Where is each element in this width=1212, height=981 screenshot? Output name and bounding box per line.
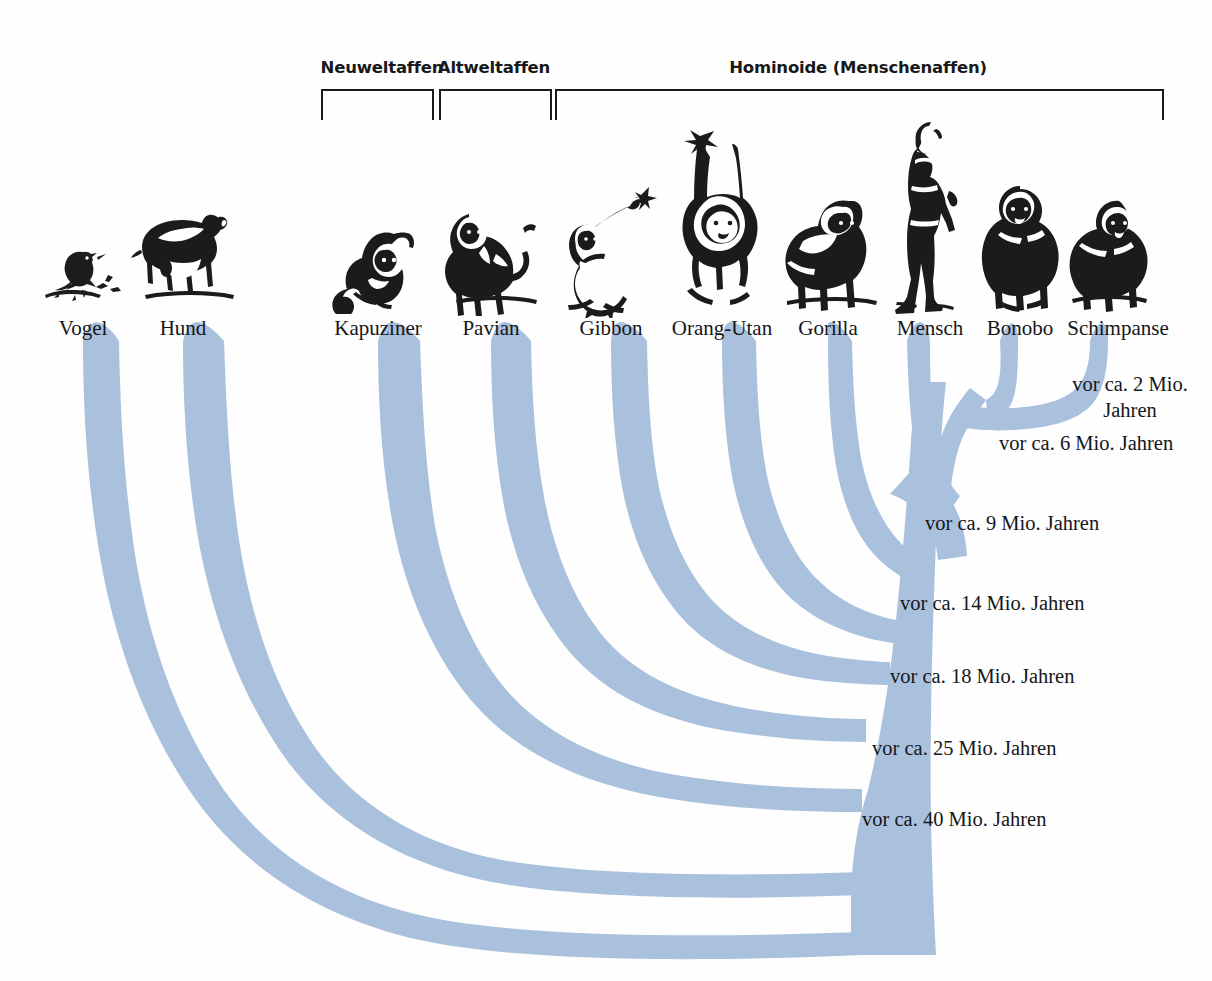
phylogenetic-tree-diagram: Neuweltaffen Altweltaffen Hominoide (Men… (0, 0, 1212, 981)
time-label-6mya: vor ca. 6 Mio. Jahren (999, 430, 1173, 456)
bonobo-illustration (977, 180, 1063, 318)
taxon-label-bonobo: Bonobo (987, 316, 1054, 341)
time-label-40mya: vor ca. 40 Mio. Jahren (862, 806, 1046, 832)
taxon-label-pavian: Pavian (462, 316, 519, 341)
orangutan-illustration (672, 128, 772, 318)
gorilla-illustration (773, 191, 883, 317)
baboon-illustration (436, 192, 546, 316)
taxon-label-gibbon: Gibbon (580, 316, 643, 341)
group-label-neuweltaffen: Neuweltaffen (321, 58, 444, 77)
branch-orangutan (722, 322, 908, 644)
taxon-label-kapuziner: Kapuziner (334, 316, 421, 341)
group-label-hominoide: Hominoide (Menschenaffen) (729, 58, 987, 77)
time-label-9mya: vor ca. 9 Mio. Jahren (925, 510, 1099, 536)
taxon-label-schimpanse: Schimpanse (1067, 316, 1168, 341)
gibbon-illustration (556, 173, 666, 318)
time-label-18mya: vor ca. 18 Mio. Jahren (890, 663, 1074, 689)
dog-illustration (125, 207, 241, 307)
taxon-label-mensch: Mensch (897, 316, 964, 341)
time-label-25mya: vor ca. 25 Mio. Jahren (872, 735, 1056, 761)
time-label-14mya: vor ca. 14 Mio. Jahren (900, 590, 1084, 616)
tree-trunk-and-branches (83, 322, 1108, 959)
capuchin-illustration (328, 222, 428, 314)
taxon-label-hund: Hund (160, 316, 207, 341)
taxon-label-vogel: Vogel (59, 316, 108, 341)
human-illustration (891, 116, 969, 316)
taxon-label-orang-utan: Orang-Utan (672, 316, 772, 341)
time-label-2mya: vor ca. 2 Mio. Jahren (1045, 371, 1212, 423)
chimpanzee-illustration (1064, 195, 1156, 317)
bird-illustration (41, 243, 125, 307)
tree-branches (0, 0, 1212, 981)
group-label-altweltaffen: Altweltaffen (438, 58, 550, 77)
taxon-label-gorilla: Gorilla (798, 316, 857, 341)
